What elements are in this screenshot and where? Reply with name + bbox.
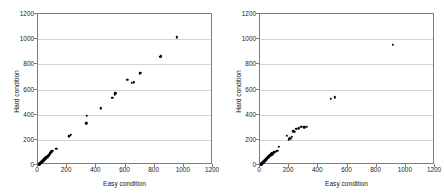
gridline-y	[260, 39, 433, 40]
y-axis-tick-label: 600	[228, 85, 256, 92]
gridline-y	[260, 90, 433, 91]
data-point	[55, 147, 57, 149]
x-axis-tick-mark	[317, 164, 318, 167]
x-axis-tick-label: 1200	[419, 166, 444, 173]
x-axis-tick-mark	[125, 164, 126, 167]
gridline-y	[38, 39, 211, 40]
data-point	[175, 36, 177, 38]
panel-a-xlabel: Easy condition	[37, 180, 212, 187]
y-axis-tick-mark	[34, 38, 37, 39]
data-point	[285, 134, 287, 136]
x-axis-tick-label: 400	[302, 166, 332, 173]
x-axis-tick-mark	[154, 164, 155, 167]
panel-spatial-words: (a) Sptatial words Hard condition Easy c…	[0, 0, 222, 196]
y-axis-tick-label: 1200	[6, 10, 34, 17]
data-point	[133, 81, 135, 83]
y-axis-tick-label: 400	[6, 110, 34, 117]
y-axis-tick-label: 600	[6, 85, 34, 92]
scatter-figure: (a) Sptatial words Hard condition Easy c…	[0, 0, 444, 196]
x-axis-tick-mark	[434, 164, 435, 167]
x-axis-tick-label: 600	[110, 166, 140, 173]
x-axis-tick-label: 0	[244, 166, 274, 173]
y-axis-tick-mark	[34, 63, 37, 64]
x-axis-tick-label: 400	[80, 166, 110, 173]
y-axis-tick-label: 1000	[228, 35, 256, 42]
data-point	[100, 107, 102, 109]
panel-nonspatial-words: (b) Non-sptatial words Hard condition Ea…	[222, 0, 444, 196]
data-point	[277, 145, 279, 147]
x-axis-tick-mark	[212, 164, 213, 167]
panel-a-plot-area	[37, 13, 212, 164]
x-axis-tick-mark	[37, 164, 38, 167]
y-axis-tick-mark	[34, 139, 37, 140]
x-axis-tick-mark	[95, 164, 96, 167]
x-axis-tick-mark	[183, 164, 184, 167]
y-axis-tick-mark	[256, 38, 259, 39]
y-axis-tick-label: 200	[228, 135, 256, 142]
y-axis-tick-label: 200	[6, 135, 34, 142]
data-point	[300, 126, 302, 128]
y-axis-tick-label: 800	[228, 60, 256, 67]
y-axis-tick-label: 1200	[228, 10, 256, 17]
x-axis-tick-mark	[66, 164, 67, 167]
panel-b-plot-area	[259, 13, 434, 164]
y-axis-tick-label: 1000	[6, 35, 34, 42]
x-axis-tick-mark	[259, 164, 260, 167]
y-axis-tick-mark	[256, 139, 259, 140]
x-axis-tick-label: 1000	[390, 166, 420, 173]
y-axis-tick-mark	[256, 13, 259, 14]
gridline-y	[38, 64, 211, 65]
data-point	[329, 97, 331, 99]
data-point	[85, 122, 87, 124]
data-point	[306, 125, 308, 127]
x-axis-tick-mark	[376, 164, 377, 167]
data-point	[333, 96, 335, 98]
y-axis-tick-label: 400	[228, 110, 256, 117]
gridline-y	[260, 115, 433, 116]
y-axis-tick-mark	[256, 63, 259, 64]
gridline-y	[260, 140, 433, 141]
x-axis-tick-mark	[288, 164, 289, 167]
x-axis-tick-label: 600	[332, 166, 362, 173]
x-axis-tick-label: 0	[22, 166, 52, 173]
panel-b-xlabel: Easy condition	[259, 180, 434, 187]
x-axis-tick-mark	[347, 164, 348, 167]
data-point	[111, 96, 113, 98]
y-axis-tick-mark	[256, 114, 259, 115]
x-axis-tick-label: 200	[273, 166, 303, 173]
gridline-y	[260, 64, 433, 65]
gridline-y	[38, 115, 211, 116]
x-axis-tick-label: 200	[51, 166, 81, 173]
x-axis-tick-label: 1000	[168, 166, 198, 173]
y-axis-tick-mark	[34, 89, 37, 90]
data-point	[126, 78, 128, 80]
data-point	[294, 131, 296, 133]
y-axis-tick-mark	[34, 114, 37, 115]
x-axis-tick-label: 800	[361, 166, 391, 173]
x-axis-tick-mark	[405, 164, 406, 167]
y-axis-tick-mark	[34, 13, 37, 14]
data-point	[276, 150, 278, 152]
gridline-y	[38, 90, 211, 91]
data-point	[392, 44, 394, 46]
y-axis-tick-mark	[256, 89, 259, 90]
gridline-y	[38, 140, 211, 141]
y-axis-tick-label: 800	[6, 60, 34, 67]
x-axis-tick-label: 800	[139, 166, 169, 173]
